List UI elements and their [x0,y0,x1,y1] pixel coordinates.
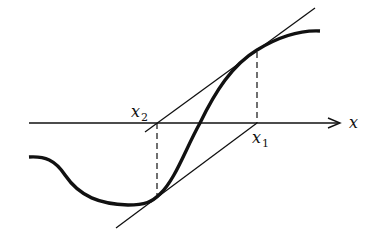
svg-text:1: 1 [262,137,269,150]
svg-text:x: x [131,102,140,121]
newton-method-diagram: x x 2 x 1 [0,0,373,238]
tangent-line-at-x1 [145,8,315,132]
label-x2: x 2 [131,102,148,124]
tangent-line-at-x2 [116,123,257,228]
svg-text:x: x [252,128,261,147]
label-x1: x 1 [252,128,269,150]
svg-text:2: 2 [141,111,148,124]
function-curve [29,31,320,205]
x-axis-label: x [349,113,358,132]
